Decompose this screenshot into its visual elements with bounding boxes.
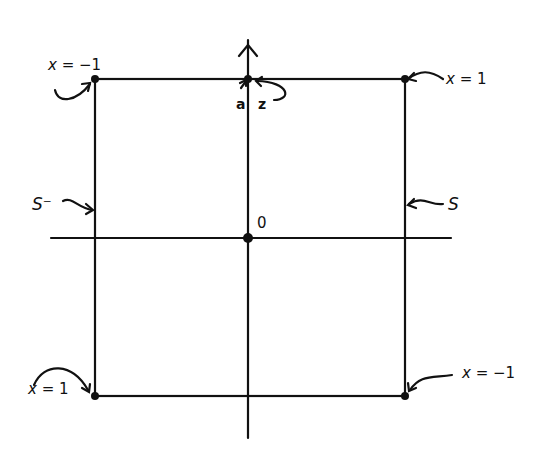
label-s: S xyxy=(448,194,459,214)
corner-point-top-right xyxy=(401,75,409,83)
label-a: a xyxy=(236,96,245,112)
label-top-right: x = 1 xyxy=(446,70,487,88)
corner-point-top-left xyxy=(91,75,99,83)
label-top-left: x x = −1= −1 xyxy=(48,56,101,74)
label-bottom-left: x = 1 xyxy=(28,380,69,398)
corner-point-bottom-left xyxy=(91,392,99,400)
corner-point-bottom-right xyxy=(401,392,409,400)
label-z: z xyxy=(258,96,266,112)
top-axis-point xyxy=(244,75,252,83)
label-bottom-right: x = −1 xyxy=(462,364,515,382)
pointer-top-left xyxy=(55,84,90,99)
pointer-s xyxy=(409,200,443,204)
origin-point xyxy=(243,233,253,243)
label-origin: 0 xyxy=(257,214,267,232)
label-s-minus: S⁻ xyxy=(32,194,52,214)
